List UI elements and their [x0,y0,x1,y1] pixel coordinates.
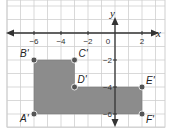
vertex-label: A' [19,113,30,124]
x-tick-label: 0 [106,37,111,46]
coordinate-plane-diagram: x y −6−4−202−2−4−6 A'B'C'D'E'F' [0,0,170,134]
x-tick-label: −6 [29,37,39,46]
y-axis-label: y [109,7,115,19]
x-tick-label: 2 [140,37,145,46]
vertex-point [72,57,78,63]
y-tick-label: −2 [103,56,113,65]
vertex-label: B' [20,48,30,59]
vertex-point [31,57,37,63]
y-tick-label: −6 [103,110,113,119]
vertex-label: F' [146,114,155,125]
vertex-point [139,111,145,117]
vertex-label: C' [79,48,89,59]
vertex-point [139,84,145,90]
coordinate-grid-svg: x y −6−4−202−2−4−6 A'B'C'D'E'F' [0,0,170,134]
vertex-label: E' [146,75,156,86]
x-axis-label: x [155,27,161,39]
y-tick-label: −4 [103,83,113,92]
vertex-point [31,111,37,117]
vertex-label: D' [78,74,88,85]
x-tick-label: −2 [83,37,93,46]
x-tick-label: −4 [56,37,66,46]
